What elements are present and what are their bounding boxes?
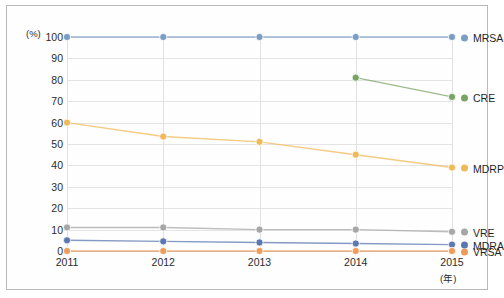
data-point-VRE (63, 224, 70, 231)
series-layer (67, 37, 452, 251)
series-line-CRE (356, 78, 452, 97)
data-point-MDRA (160, 238, 167, 245)
y-tick-60: 60 (51, 117, 63, 129)
data-point-MDRP (63, 119, 70, 126)
legend-item-VRE[interactable]: VRE (461, 225, 495, 238)
data-point-MDRA (256, 239, 263, 246)
data-point-VRE (256, 226, 263, 233)
y-tick-20: 20 (51, 202, 63, 214)
data-point-MRSA (256, 33, 263, 40)
legend-item-VRSA[interactable]: VRSA (461, 244, 502, 257)
x-tick-2015: 2015 (440, 256, 463, 268)
legend-swatch-CRE (461, 94, 468, 101)
data-point-MDRP (160, 133, 167, 140)
y-tick-80: 80 (51, 74, 63, 86)
y-tick-40: 40 (51, 159, 63, 171)
data-point-VRSA (448, 247, 455, 254)
legend-label-VRE: VRE (473, 226, 495, 238)
x-tick-2012: 2012 (152, 256, 175, 268)
x-axis-unit-label: (年) (440, 271, 456, 285)
data-point-MRSA (63, 33, 70, 40)
data-point-MRSA (352, 33, 359, 40)
data-point-VRSA (352, 247, 359, 254)
data-point-CRE (448, 93, 455, 100)
data-point-VRE (160, 224, 167, 231)
chart-frame: (%) 0102030405060708090100 2011201220132… (6, 5, 488, 290)
legend-item-MRSA[interactable]: MRSA (461, 30, 503, 43)
data-point-VRSA (160, 247, 167, 254)
y-axis-tick-labels: 0102030405060708090100 (7, 37, 63, 251)
legend-label-VRSA: VRSA (473, 246, 502, 258)
legend-swatch-MRSA (461, 34, 468, 41)
y-tick-90: 90 (51, 52, 63, 64)
legend-swatch-VRE (461, 229, 468, 236)
x-tick-2011: 2011 (56, 256, 79, 268)
data-point-MRSA (160, 33, 167, 40)
data-point-VRE (448, 228, 455, 235)
data-point-MDRP (448, 164, 455, 171)
legend-label-CRE: CRE (473, 92, 495, 104)
gridline-x-2015 (452, 37, 453, 251)
legend-swatch-VRSA (461, 248, 468, 255)
data-point-MDRA (63, 237, 70, 244)
legend-item-MDRP[interactable]: MDRP (461, 161, 504, 174)
data-point-MDRP (352, 151, 359, 158)
legend-label-MDRP: MDRP (473, 162, 504, 174)
legend-swatch-MDRP (461, 165, 468, 172)
data-point-CRE (352, 74, 359, 81)
y-tick-50: 50 (51, 138, 63, 150)
data-point-MDRP (256, 138, 263, 145)
y-tick-10: 10 (51, 224, 63, 236)
y-tick-30: 30 (51, 181, 63, 193)
data-point-VRSA (63, 247, 70, 254)
y-tick-70: 70 (51, 95, 63, 107)
data-point-MDRA (352, 240, 359, 247)
legend-label-MRSA: MRSA (473, 32, 503, 44)
y-tick-100: 100 (45, 31, 63, 43)
data-point-MRSA (448, 33, 455, 40)
plot-area (67, 37, 452, 251)
x-tick-2013: 2013 (248, 256, 271, 268)
data-point-VRE (352, 226, 359, 233)
legend-item-CRE[interactable]: CRE (461, 90, 495, 103)
x-tick-2014: 2014 (344, 256, 367, 268)
data-point-VRSA (256, 247, 263, 254)
